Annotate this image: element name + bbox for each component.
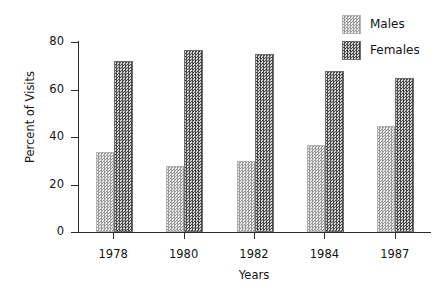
bar-males-1987 [377, 126, 396, 233]
x-axis-title: Years [78, 268, 430, 282]
x-tick-mark [113, 233, 114, 239]
plot-area [78, 42, 430, 232]
legend-item-females: Females [342, 39, 442, 61]
legend-swatch-males-icon [342, 15, 361, 34]
y-tick-mark [71, 90, 78, 91]
bar-females-1980 [184, 50, 203, 233]
y-tick-label: 80 [18, 36, 64, 48]
legend-item-males: Males [342, 13, 442, 35]
legend-swatch-females-icon [342, 41, 361, 60]
bar-females-1984 [325, 71, 344, 232]
x-tick-label: 1978 [83, 248, 143, 260]
x-tick-mark [254, 233, 255, 239]
x-tick-mark [324, 233, 325, 239]
x-tick-mark [395, 233, 396, 239]
bar-males-1980 [166, 166, 185, 232]
legend-label-males: Males [370, 17, 405, 31]
x-tick-label: 1982 [224, 248, 284, 260]
bar-males-1982 [237, 161, 256, 232]
y-tick-label: 0 [18, 226, 64, 238]
y-tick-label: 20 [18, 179, 64, 191]
y-tick-label: 40 [18, 131, 64, 143]
x-tick-label: 1984 [294, 248, 354, 260]
bar-males-1984 [307, 145, 326, 233]
chart-legend: Males Females [342, 13, 442, 65]
y-axis-title: Percent of Visits [23, 47, 37, 187]
x-tick-mark [184, 233, 185, 239]
legend-label-females: Females [370, 43, 420, 57]
bar-chart: Percent of Visits 020406080 197819801982… [0, 0, 444, 300]
x-tick-label: 1987 [365, 248, 425, 260]
bar-females-1978 [114, 61, 133, 232]
y-tick-mark [71, 137, 78, 138]
x-tick-label: 1980 [154, 248, 214, 260]
y-tick-mark [71, 232, 78, 233]
y-tick-mark [71, 42, 78, 43]
bar-females-1982 [255, 54, 274, 232]
y-tick-mark [71, 185, 78, 186]
bar-females-1987 [395, 78, 414, 232]
y-tick-label: 60 [18, 84, 64, 96]
bar-males-1978 [96, 152, 115, 232]
